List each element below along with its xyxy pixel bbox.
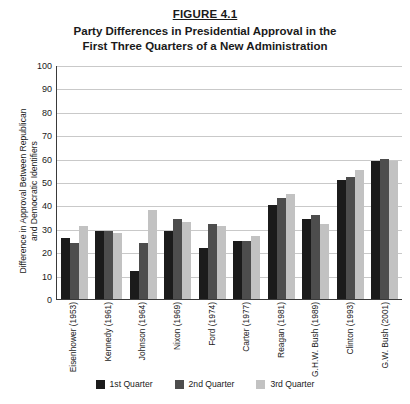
y-tick-label: 50: [42, 179, 52, 188]
bar-q2[interactable]: [277, 198, 286, 299]
bar-q1[interactable]: [164, 231, 173, 299]
bar-q1[interactable]: [268, 205, 277, 299]
x-label-cell: G.W. Bush (2001): [367, 302, 402, 368]
bar-q1[interactable]: [130, 271, 139, 299]
bar-q3[interactable]: [182, 222, 191, 299]
bar-q3[interactable]: [320, 224, 329, 299]
legend-item[interactable]: 2nd Quarter: [175, 380, 235, 389]
y-axis-ticks: 1009080706050403020100: [26, 62, 52, 300]
x-label-cell: Carter (1977): [229, 302, 264, 368]
y-tick-label: 20: [42, 249, 52, 258]
bar-group: [57, 66, 92, 299]
legend-label: 1st Quarter: [110, 380, 153, 389]
bar-q1[interactable]: [337, 180, 346, 299]
y-tick-label: 0: [47, 296, 52, 305]
figure-title: Party Differences in Presidential Approv…: [0, 24, 410, 53]
legend-label: 2nd Quarter: [189, 380, 235, 389]
bar-group: [333, 66, 368, 299]
bar-q3[interactable]: [79, 226, 88, 299]
legend-swatch-q1: [96, 380, 105, 389]
y-tick-label: 40: [42, 202, 52, 211]
x-axis-tick-label: Johnson (1964): [138, 302, 147, 360]
bar-group: [126, 66, 161, 299]
bar-q3[interactable]: [148, 210, 157, 299]
x-label-cell: Clinton (1993): [333, 302, 368, 368]
x-axis-labels: Eisenhower (1953)Kennedy (1961)Johnson (…: [56, 302, 402, 368]
bar-q2[interactable]: [380, 159, 389, 299]
bar-q1[interactable]: [302, 219, 311, 299]
y-tick-label: 80: [42, 108, 52, 117]
bar-q2[interactable]: [70, 243, 79, 299]
grid-area: [56, 66, 402, 300]
bar-group: [264, 66, 299, 299]
y-tick-label: 60: [42, 155, 52, 164]
plot-area: Difference in Approval Between Republica…: [0, 62, 410, 304]
bar-q3[interactable]: [113, 233, 122, 299]
figure-title-line-1: Party Differences in Presidential Approv…: [28, 24, 382, 39]
x-label-cell: Nixon (1969): [160, 302, 195, 368]
bar-group: [230, 66, 265, 299]
x-label-cell: Kennedy (1961): [91, 302, 126, 368]
y-tick-label: 90: [42, 85, 52, 94]
bar-group: [368, 66, 403, 299]
y-tick-label: 70: [42, 132, 52, 141]
legend-item[interactable]: 1st Quarter: [96, 380, 153, 389]
x-label-cell: Reagan (1981): [264, 302, 299, 368]
bar-group: [92, 66, 127, 299]
bar-q1[interactable]: [371, 161, 380, 299]
bar-q2[interactable]: [311, 215, 320, 299]
bar-q2[interactable]: [208, 224, 217, 299]
x-axis-tick-label: Kennedy (1961): [103, 302, 112, 362]
bar-q2[interactable]: [242, 241, 251, 300]
bar-q2[interactable]: [173, 219, 182, 299]
x-label-cell: Eisenhower (1953): [56, 302, 91, 368]
x-axis-tick-label: Ford (1974): [207, 302, 216, 346]
bar-q3[interactable]: [217, 226, 226, 299]
x-axis-tick-label: Nixon (1969): [173, 302, 182, 350]
x-label-cell: G.H.W. Bush (1989): [298, 302, 333, 368]
x-axis-tick-label: Reagan (1981): [276, 302, 285, 358]
legend-swatch-q2: [175, 380, 184, 389]
legend-swatch-q3: [256, 380, 265, 389]
x-axis-tick-label: Eisenhower (1953): [69, 302, 78, 372]
chart-legend: 1st Quarter2nd Quarter3rd Quarter: [0, 380, 410, 389]
bar-q1[interactable]: [233, 241, 242, 300]
legend-item[interactable]: 3rd Quarter: [256, 380, 314, 389]
y-tick-label: 100: [37, 62, 52, 71]
bar-q1[interactable]: [199, 248, 208, 299]
x-axis-tick-label: Clinton (1993): [346, 302, 355, 355]
figure-title-line-2: First Three Quarters of a New Administra…: [28, 39, 382, 54]
bar-q2[interactable]: [139, 243, 148, 299]
bar-group: [161, 66, 196, 299]
y-tick-label: 10: [42, 272, 52, 281]
legend-label: 3rd Quarter: [270, 380, 314, 389]
x-axis-tick-label: Carter (1977): [242, 302, 251, 352]
bar-q2[interactable]: [104, 231, 113, 299]
bar-q3[interactable]: [251, 236, 260, 299]
bar-q3[interactable]: [389, 161, 398, 299]
figure-title-block: FIGURE 4.1 Party Differences in Presiden…: [0, 4, 410, 53]
bar-q3[interactable]: [355, 170, 364, 299]
x-label-cell: Ford (1974): [194, 302, 229, 368]
bar-q1[interactable]: [95, 231, 104, 299]
x-label-cell: Johnson (1964): [125, 302, 160, 368]
bar-q3[interactable]: [286, 194, 295, 299]
x-axis-tick-label: G.H.W. Bush (1989): [311, 302, 320, 377]
bar-q2[interactable]: [346, 177, 355, 299]
bar-q1[interactable]: [61, 238, 70, 299]
bar-group: [299, 66, 334, 299]
bar-group: [195, 66, 230, 299]
figure-number: FIGURE 4.1: [173, 7, 238, 21]
y-tick-label: 30: [42, 225, 52, 234]
bar-groups: [57, 66, 402, 299]
figure-container: FIGURE 4.1 Party Differences in Presiden…: [0, 0, 410, 404]
x-axis-tick-label: G.W. Bush (2001): [380, 302, 389, 369]
